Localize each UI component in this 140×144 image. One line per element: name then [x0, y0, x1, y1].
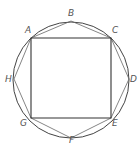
label-C: C: [112, 25, 119, 35]
label-B: B: [68, 8, 74, 18]
geometry-diagram: A B C D E F G H: [0, 0, 140, 144]
square-ACEG: [31, 38, 111, 118]
label-G: G: [20, 118, 27, 128]
label-F: F: [69, 135, 75, 144]
label-D: D: [130, 74, 137, 84]
label-E: E: [112, 118, 118, 128]
label-H: H: [5, 74, 12, 84]
label-A: A: [24, 25, 31, 35]
